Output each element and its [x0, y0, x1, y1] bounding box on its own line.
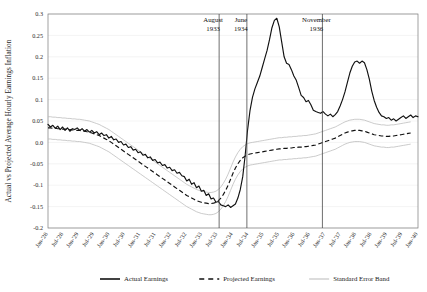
y-tick-label: 0.1 — [35, 96, 43, 103]
x-tick-label: Jan-'32 — [157, 231, 172, 248]
x-tick-label: Jan-'33 — [188, 231, 203, 248]
y-axis-tick-labels: 0.30.250.20.150.10.050.0-0.05-0.1-0.15-0… — [30, 10, 43, 231]
legend-label: Actual Earnings — [124, 275, 168, 282]
y-axis-title-text: Actual vs Projected Average Hourly Earni… — [5, 39, 13, 202]
y-axis-title: Actual vs Projected Average Hourly Earni… — [5, 39, 13, 202]
x-tick-label: Jul-'39 — [389, 231, 403, 248]
x-tick-label: Jul-'36 — [297, 231, 311, 248]
x-tick-label: Jan-'31 — [127, 231, 142, 248]
x-tick-label: Jan-'29 — [65, 231, 80, 248]
y-tick-label: -0.15 — [30, 203, 43, 210]
projected-earnings-series — [48, 128, 411, 204]
y-tick-label: -0.05 — [30, 160, 43, 167]
x-tick-label: Jul-'29 — [81, 231, 95, 248]
x-tick-label: Jan-'34 — [219, 231, 234, 248]
x-tick-label: Jan-'28 — [34, 231, 49, 248]
y-tick-label: -0.1 — [33, 181, 43, 188]
x-tick-label: Jul-'34 — [235, 231, 249, 248]
x-tick-label: Jul-'30 — [112, 231, 126, 248]
x-tick-label: Jul-'33 — [204, 231, 218, 248]
gridlines — [48, 14, 418, 228]
actual-earnings-line — [48, 18, 418, 207]
x-tick-label: Jul-'32 — [173, 231, 187, 248]
x-tick-label: Jan-'35 — [250, 231, 265, 248]
annotation-label-line2: 1933 — [206, 25, 220, 32]
projected-earnings-line — [48, 128, 411, 204]
x-tick-label: Jan-'37 — [312, 231, 327, 248]
legend-label: Projected Earnings — [223, 275, 275, 282]
x-tick-label: Jul-'28 — [50, 231, 64, 248]
legend-label: Standard Error Band — [333, 275, 390, 282]
annotation-label-line1: November — [302, 16, 331, 23]
band-lower-line — [48, 139, 411, 215]
y-tick-label: 0.15 — [32, 74, 43, 81]
x-tick-label: Jan-'38 — [342, 231, 357, 248]
x-tick-label: Jan-'36 — [281, 231, 296, 248]
earnings-inflation-line-chart: 0.30.250.20.150.10.050.0-0.05-0.1-0.15-0… — [0, 0, 427, 292]
y-tick-label: 0.25 — [32, 32, 43, 39]
annotation-label-line1: June — [235, 16, 247, 23]
y-tick-label: 0.2 — [35, 53, 43, 60]
annotation-label-line2: 1934 — [234, 25, 248, 32]
x-tick-label: Jul-'38 — [358, 231, 372, 248]
x-tick-label: Jan-'40 — [404, 231, 419, 248]
chart-legend: Actual EarningsProjected EarningsStandar… — [100, 275, 390, 282]
annotation-label-line2: 1936 — [310, 25, 324, 32]
annotation-label-line1: August — [203, 16, 223, 23]
standard-error-band-series — [48, 117, 411, 215]
x-tick-label: Jan-'30 — [96, 231, 111, 248]
y-tick-label: 0.0 — [35, 139, 43, 146]
x-axis-tick-labels: Jan-'28Jul-'28Jan-'29Jul-'29Jan-'30Jul-'… — [34, 231, 419, 248]
x-tick-label: Jan-'39 — [373, 231, 388, 248]
x-tick-label: Jul-'37 — [328, 231, 342, 248]
y-tick-label: 0.3 — [35, 10, 43, 17]
y-tick-label: 0.05 — [32, 117, 43, 124]
chart-container: 0.30.250.20.150.10.050.0-0.05-0.1-0.15-0… — [0, 0, 427, 292]
y-tick-label: -0.2 — [33, 224, 43, 231]
x-tick-label: Jul-'35 — [266, 231, 280, 248]
actual-earnings-series — [48, 18, 418, 207]
x-tick-label: Jul-'31 — [143, 231, 157, 248]
